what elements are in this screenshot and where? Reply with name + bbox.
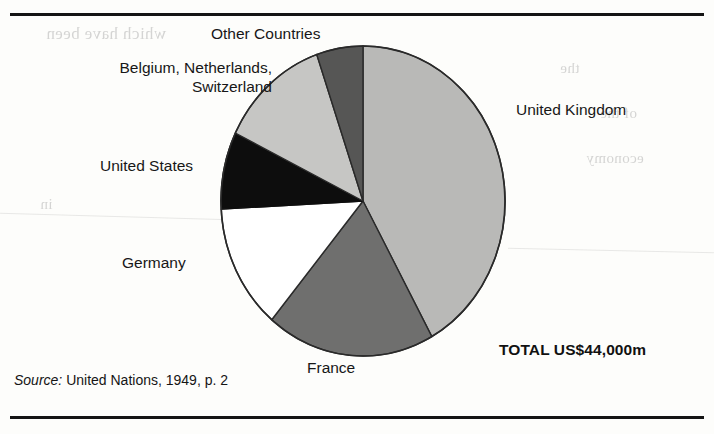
pie-chart: United Kingdom Other Countries Belgium, … bbox=[0, 0, 714, 434]
slice-label-benelux-line2: Switzerland bbox=[192, 78, 272, 95]
figure-container: which have been the of the economy in Un… bbox=[0, 0, 714, 434]
total-label: TOTAL US$44,000m bbox=[499, 341, 646, 359]
source-note: Source: United Nations, 1949, p. 2 bbox=[14, 372, 228, 388]
slice-label-belgium-netherlands-switzerland: Belgium, Netherlands, Switzerland bbox=[60, 58, 272, 96]
source-note-prefix: Source: bbox=[14, 372, 62, 388]
slice-label-france: France bbox=[307, 358, 355, 377]
source-note-text: United Nations, 1949, p. 2 bbox=[62, 372, 228, 388]
slice-label-united-states: United States bbox=[100, 156, 193, 175]
slice-label-other-countries: Other Countries bbox=[211, 24, 320, 43]
slice-label-germany: Germany bbox=[122, 253, 186, 272]
slice-label-benelux-line1: Belgium, Netherlands, bbox=[120, 59, 273, 76]
slice-label-united-kingdom: United Kingdom bbox=[516, 100, 626, 119]
